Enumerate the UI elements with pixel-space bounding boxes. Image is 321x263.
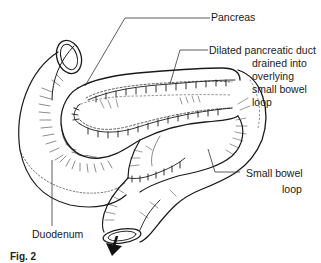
leader-pancreas [85,18,210,86]
label-pancreatic-duct-line4: small bowel [252,83,307,95]
small-bowel-loop-inner [140,116,243,192]
leader-pancreatic-duct [170,50,208,84]
label-pancreatic-duct-line3: overlying [252,70,294,82]
figure-caption: Fig. 2 [10,251,36,262]
efferent-limb-cut-end [102,226,142,245]
label-pancreas: Pancreas [211,11,255,23]
pancreas-outline [61,88,238,158]
label-small-bowel-line2: loop [282,183,302,195]
label-small-bowel-line1: Small bowel [246,167,303,179]
anastomosis-suture [128,158,185,182]
label-pancreatic-duct-line2: drained into [252,57,307,69]
small-bowel-loop-outer [140,70,266,242]
label-pancreatic-duct-line5: loop [252,96,272,108]
label-pancreatic-duct-line1: Dilated pancreatic duct [209,44,316,56]
suture-line-left [72,104,80,124]
label-duodenum: Duodenum [32,228,83,240]
